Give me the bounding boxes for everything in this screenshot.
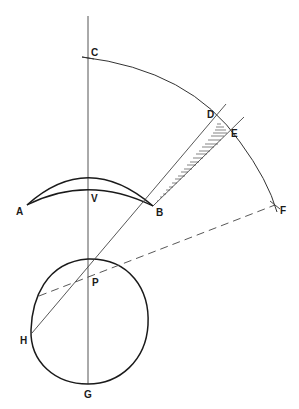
label-c: C (91, 47, 98, 58)
label-b: B (156, 207, 163, 218)
label-g: G (84, 389, 92, 400)
label-p: P (92, 277, 99, 288)
arc-cdef (82, 57, 277, 212)
label-h: H (20, 335, 27, 346)
hatched-wedge (157, 124, 227, 201)
label-e: E (231, 128, 238, 139)
ray-h-to-d (32, 104, 226, 333)
tick-f (270, 201, 280, 209)
label-a: A (16, 206, 23, 217)
label-f: F (280, 205, 286, 216)
label-v: V (91, 193, 98, 204)
eye-circle (31, 259, 148, 384)
optics-diagram: C D E F A V B P H G (0, 0, 299, 409)
label-d: D (207, 109, 214, 120)
lens-upper-surface (27, 178, 153, 206)
